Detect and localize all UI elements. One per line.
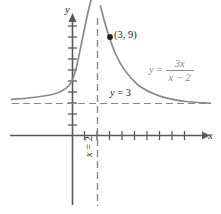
equation-equals-sign: = — [157, 65, 163, 76]
point-annotation-label: (3, 9) — [114, 30, 137, 41]
fraction-bar — [166, 70, 194, 71]
equation-denominator: x − 2 — [166, 72, 194, 83]
x-axis — [10, 131, 210, 140]
equation-fraction: 3x x − 2 — [166, 58, 194, 83]
equation-lhs: y — [149, 65, 154, 76]
hasymptote-label-value: = 3 — [117, 87, 131, 98]
curve-left-branch — [12, 0, 95, 99]
y-axis-label: y — [65, 4, 70, 15]
hasymptote-label-variable: y — [110, 87, 115, 98]
function-equation-label: y = 3x x − 2 — [149, 58, 194, 83]
point-marker — [107, 34, 113, 40]
vasymptote-label-value: = 2 — [83, 136, 94, 150]
graph-canvas — [0, 0, 221, 214]
equation-numerator: 3x — [172, 58, 188, 69]
vertical-asymptote-label: x = 2 — [84, 136, 95, 157]
vasymptote-label-variable: x — [83, 152, 94, 157]
x-axis-label: x — [208, 130, 213, 141]
y-axis — [68, 13, 77, 205]
horizontal-asymptote-label: y = 3 — [110, 88, 131, 99]
rational-function-graph-figure: y x (3, 9) y = 3 x = 2 y = 3x x − 2 — [0, 0, 221, 214]
